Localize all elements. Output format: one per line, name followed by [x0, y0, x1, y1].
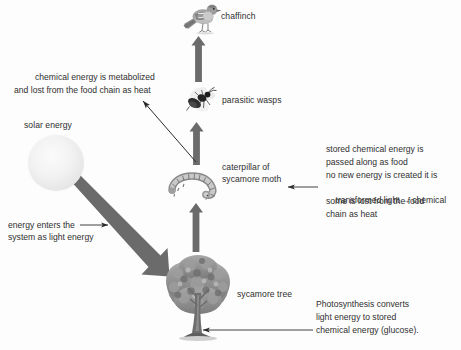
sun-icon: [28, 135, 84, 191]
annotation-photosynthesis-line2: light energy to stored: [316, 311, 396, 323]
annotation-heat-loss-line1: chemical energy is metabolized: [35, 71, 155, 83]
tree-icon: [166, 255, 230, 341]
bird-icon: [184, 5, 222, 35]
arrow-wasp-to-chaffinch: [192, 36, 206, 82]
annotation-light-entry-line2: system as light energy: [8, 231, 94, 243]
energy-flow-diagram: chaffinch parasitic wasps caterpillar of…: [0, 0, 461, 350]
annotation-stored-energy-line6: chain as heat: [326, 208, 377, 220]
label-parasitic-wasps: parasitic wasps: [222, 95, 282, 107]
wasp-icon: [186, 85, 216, 114]
annotation-stored-energy-line5: some is lost from the food: [326, 195, 424, 207]
arrow-heat-loss: [143, 101, 196, 162]
arrow-tree-to-caterpillar: [189, 203, 203, 252]
label-solar-energy: solar energy: [24, 120, 72, 132]
annotation-heat-loss-line2: and lost from the food chain as heat: [14, 84, 151, 96]
label-sycamore-tree: sycamore tree: [237, 289, 292, 301]
arrow-caterpillar-to-wasp: [190, 122, 204, 165]
sun-disc: [28, 135, 84, 191]
annotation-stored-energy-line3: no new energy is created it is: [326, 169, 437, 181]
caterpillar-icon: [169, 174, 215, 200]
label-chaffinch: chaffinch: [221, 11, 256, 23]
annotation-photosynthesis-line1: Photosynthesis converts: [316, 298, 409, 310]
annotation-stored-energy-line1: stored chemical energy is: [326, 143, 423, 155]
label-caterpillar-line1: caterpillar of: [222, 162, 270, 174]
annotation-light-entry-line1: energy enters the: [8, 219, 75, 231]
annotation-stored-energy-line2: passed along as food: [326, 156, 408, 168]
annotation-photosynthesis-line3: chemical energy (glucose).: [316, 324, 419, 336]
label-caterpillar-line2: sycamore moth: [222, 174, 281, 186]
